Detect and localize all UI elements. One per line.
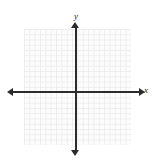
clipped-text-band: — —— — — —— —	[0, 0, 155, 9]
clipped-text: — —— — — —— —	[2, 0, 83, 3]
x-axis-arrow-left-icon	[7, 88, 13, 96]
y-axis-line	[75, 28, 77, 152]
y-axis-arrow-up-icon	[71, 22, 79, 28]
y-axis-label: y	[71, 12, 81, 21]
x-axis-label: x	[144, 86, 154, 95]
y-axis-arrow-down-icon	[71, 150, 79, 156]
grid-background	[24, 29, 131, 145]
coordinate-plane-figure: — —— — — —— — y x	[0, 0, 155, 165]
